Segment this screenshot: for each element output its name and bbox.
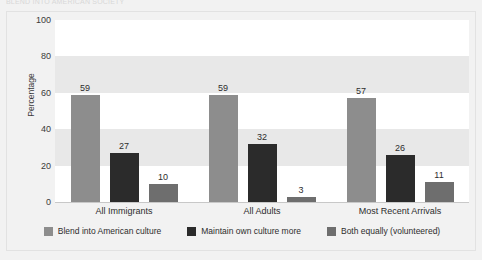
bar[interactable]	[347, 98, 376, 202]
bar-group: 572611	[331, 20, 469, 202]
bar-value-label: 32	[257, 132, 267, 142]
chart-frame: Percentage 020406080100 5927105932357261…	[6, 11, 476, 251]
legend-swatch-icon	[327, 227, 336, 236]
legend-item[interactable]: Blend into American culture	[44, 226, 161, 236]
x-tick-label: All Adults	[193, 206, 331, 216]
bar[interactable]	[386, 155, 415, 202]
bar-value-label: 59	[80, 83, 90, 93]
bar[interactable]	[248, 144, 277, 202]
bar[interactable]	[71, 95, 100, 202]
bar-wrapper: 26	[386, 20, 415, 202]
bar-wrapper: 11	[425, 20, 454, 202]
bar-value-label: 11	[434, 170, 443, 180]
bar-value-label: 10	[158, 172, 168, 182]
bar[interactable]	[149, 184, 178, 202]
bar-groups: 59271059323572611	[55, 20, 469, 202]
bar-value-label: 3	[298, 185, 303, 195]
chart-legend: Blend into American cultureMaintain own …	[7, 226, 477, 236]
bar-group: 59323	[193, 20, 331, 202]
y-axis-tick-labels: 020406080100	[25, 20, 51, 202]
legend-swatch-icon	[187, 227, 196, 236]
bar[interactable]	[425, 182, 454, 202]
bar-value-label: 27	[119, 141, 129, 151]
bar-wrapper: 3	[287, 20, 316, 202]
y-tick-label: 80	[25, 51, 51, 61]
bar-value-label: 59	[218, 83, 228, 93]
bar-wrapper: 10	[149, 20, 178, 202]
x-axis-line	[55, 202, 469, 203]
bar-wrapper: 59	[71, 20, 100, 202]
y-tick-label: 20	[25, 161, 51, 171]
bar-wrapper: 57	[347, 20, 376, 202]
bar-group: 592710	[55, 20, 193, 202]
legend-item[interactable]: Both equally (volunteered)	[327, 226, 440, 236]
y-tick-label: 40	[25, 124, 51, 134]
legend-label: Maintain own culture more	[201, 226, 301, 236]
x-tick-label: All Immigrants	[55, 206, 193, 216]
y-tick-label: 100	[25, 15, 51, 25]
bar-wrapper: 59	[209, 20, 238, 202]
y-tick-label: 60	[25, 88, 51, 98]
legend-label: Blend into American culture	[58, 226, 161, 236]
bar-value-label: 57	[356, 86, 366, 96]
plot-area: 59271059323572611	[55, 20, 469, 202]
bar-wrapper: 32	[248, 20, 277, 202]
y-tick-label: 0	[25, 197, 51, 207]
bar[interactable]	[209, 95, 238, 202]
legend-label: Both equally (volunteered)	[341, 226, 440, 236]
top-caption: BLEND INTO AMERICAN SOCIETY	[6, 0, 186, 6]
bar-wrapper: 27	[110, 20, 139, 202]
bar-value-label: 26	[395, 143, 405, 153]
legend-swatch-icon	[44, 227, 53, 236]
legend-item[interactable]: Maintain own culture more	[187, 226, 301, 236]
bar[interactable]	[110, 153, 139, 202]
x-tick-label: Most Recent Arrivals	[331, 206, 469, 216]
x-axis-tick-labels: All ImmigrantsAll AdultsMost Recent Arri…	[55, 206, 469, 216]
